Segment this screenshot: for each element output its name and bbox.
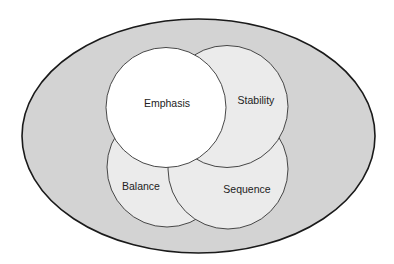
emphasis-label: Emphasis <box>144 97 190 109</box>
stability-label: Stability <box>238 94 276 106</box>
venn-diagram: Balance Sequence Stability Emphasis <box>0 0 394 264</box>
sequence-label: Sequence <box>223 183 270 195</box>
balance-label: Balance <box>122 180 160 192</box>
